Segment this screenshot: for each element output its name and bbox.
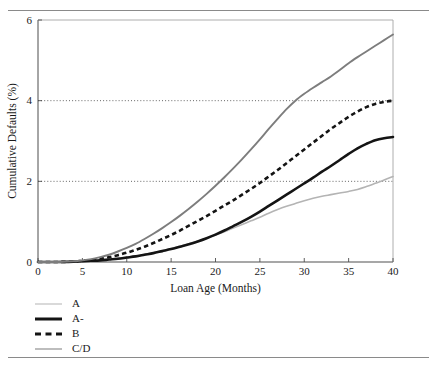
x-tick-label-10: 10 xyxy=(121,265,133,277)
legend-swatch-b-icon xyxy=(33,328,63,340)
legend-label-b: B xyxy=(72,328,79,339)
line-chart: 05101520253035400246 Loan Age (Months) C… xyxy=(0,0,437,300)
x-tick-label-5: 5 xyxy=(80,265,86,277)
legend-label-a-minus: A- xyxy=(72,313,84,324)
x-tick-label-15: 15 xyxy=(166,265,178,277)
chart-legend: A A- B C/D xyxy=(33,296,183,356)
gridlines-group xyxy=(38,101,393,182)
series-lines-group xyxy=(38,35,393,263)
plot-frame xyxy=(38,20,393,262)
legend-swatch-a-minus-icon xyxy=(33,313,63,325)
series-line-a xyxy=(38,176,393,262)
legend-swatch-cd-icon xyxy=(33,343,63,355)
legend-label-a: A xyxy=(72,298,80,309)
legend-swatch-a-icon xyxy=(33,298,63,310)
y-tick-label-6: 6 xyxy=(27,14,33,26)
y-axis-title: Cumulative Defaults (%) xyxy=(6,83,19,199)
series-line-a- xyxy=(38,137,393,262)
legend-item-cd[interactable]: C/D xyxy=(33,341,183,356)
x-tick-label-20: 20 xyxy=(210,265,222,277)
series-line-c-d xyxy=(38,35,393,263)
x-tick-label-0: 0 xyxy=(35,265,41,277)
axis-tick-labels-group: 05101520253035400246 xyxy=(27,14,400,277)
legend-label-cd: C/D xyxy=(72,343,90,354)
legend-item-a[interactable]: A xyxy=(33,296,183,311)
x-tick-label-35: 35 xyxy=(343,265,355,277)
legend-item-a-minus[interactable]: A- xyxy=(33,311,183,326)
bottom-divider-rule xyxy=(8,357,429,358)
figure-container: 05101520253035400246 Loan Age (Months) C… xyxy=(0,0,437,365)
y-tick-label-4: 4 xyxy=(27,94,33,106)
y-tick-label-0: 0 xyxy=(27,256,33,268)
x-tick-label-40: 40 xyxy=(388,265,400,277)
y-tick-label-2: 2 xyxy=(27,175,33,187)
axis-ticks-group xyxy=(38,20,393,262)
x-axis-title: Loan Age (Months) xyxy=(170,282,261,295)
plot-area-wrapper: 05101520253035400246 Loan Age (Months) C… xyxy=(0,0,437,300)
x-tick-label-30: 30 xyxy=(299,265,311,277)
x-tick-label-25: 25 xyxy=(254,265,266,277)
legend-item-b[interactable]: B xyxy=(33,326,183,341)
